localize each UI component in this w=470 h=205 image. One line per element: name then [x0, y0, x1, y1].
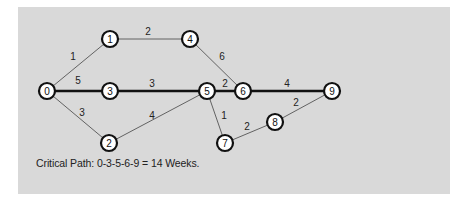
edge-0-2 [47, 91, 109, 143]
node-label: 5 [204, 86, 210, 97]
edge-4-6 [190, 39, 243, 91]
edge-weight-label: 2 [145, 26, 151, 37]
node-label: 9 [329, 86, 335, 97]
node-3: 3 [102, 83, 118, 99]
node-4: 4 [182, 31, 198, 47]
node-label: 4 [187, 34, 193, 45]
node-9: 9 [324, 83, 340, 99]
edge-weight-label: 1 [70, 51, 76, 62]
edge-8-9 [275, 91, 332, 122]
edge-weight-label: 5 [75, 75, 81, 86]
node-label: 6 [240, 86, 246, 97]
node-1: 1 [102, 31, 118, 47]
edge-weight-label: 2 [293, 97, 299, 108]
network-diagram: 1532346214220123456789 [0, 0, 470, 205]
edge-weight-label: 6 [219, 51, 225, 62]
node-8: 8 [267, 114, 283, 130]
edge-2-5 [109, 91, 207, 143]
node-label: 2 [106, 138, 112, 149]
node-2: 2 [101, 135, 117, 151]
node-7: 7 [217, 135, 233, 151]
node-0: 0 [39, 83, 55, 99]
edge-weight-label: 4 [284, 78, 290, 89]
edge-weight-label: 3 [79, 107, 85, 118]
edge-weight-label: 2 [244, 121, 250, 132]
critical-path-caption: Critical Path: 0-3-5-6-9 = 14 Weeks. [36, 157, 199, 169]
node-label: 3 [107, 86, 113, 97]
edge-weight-label: 1 [221, 110, 227, 121]
node-label: 1 [107, 34, 113, 45]
node-label: 7 [222, 138, 228, 149]
node-6: 6 [235, 83, 251, 99]
edge-weight-label: 2 [222, 78, 228, 89]
edge-weight-label: 4 [149, 110, 155, 121]
edge-weight-label: 3 [149, 78, 155, 89]
node-label: 8 [272, 117, 278, 128]
node-5: 5 [199, 83, 215, 99]
node-label: 0 [44, 86, 50, 97]
